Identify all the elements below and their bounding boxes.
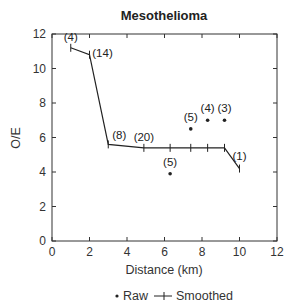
legend-raw-label: Raw: [123, 289, 149, 303]
smoothed-point-label: (8): [112, 129, 126, 141]
raw-point: [189, 127, 193, 131]
raw-point-label: (4): [201, 102, 215, 114]
x-axis-label: Distance (km): [125, 263, 202, 277]
legend: Raw Smoothed: [115, 289, 233, 303]
x-tick-label: 0: [49, 245, 56, 259]
raw-point-label: (5): [163, 156, 177, 168]
y-tick-label: 4: [39, 165, 46, 179]
y-tick-label: 0: [39, 234, 46, 248]
x-tick-label: 10: [233, 245, 247, 259]
y-axis-label: O/E: [9, 127, 23, 149]
x-tick-label: 12: [270, 245, 284, 259]
x-axis-ticks: 024681012: [49, 34, 284, 259]
x-tick-label: 6: [161, 245, 168, 259]
chart-title: Mesothelioma: [121, 8, 208, 23]
y-tick-label: 12: [33, 27, 47, 41]
x-tick-label: 2: [86, 245, 93, 259]
y-tick-label: 6: [39, 131, 46, 145]
smoothed-point-label: (1): [232, 150, 246, 162]
raw-legend-marker: [115, 294, 118, 297]
smoothed-point-label: (14): [92, 47, 113, 59]
raw-point: [223, 118, 227, 122]
smoothed-point-label: (20): [134, 131, 155, 143]
legend-smoothed-label: Smoothed: [176, 289, 233, 303]
raw-point: [206, 118, 210, 122]
y-tick-label: 2: [39, 200, 46, 214]
raw-point-label: (3): [217, 102, 231, 114]
raw-series: (5)(5)(4)(3): [163, 102, 232, 175]
smoothed-point-label: (4): [64, 31, 78, 43]
x-tick-label: 4: [124, 245, 131, 259]
raw-point-label: (5): [184, 111, 198, 123]
x-tick-label: 8: [199, 245, 206, 259]
y-tick-label: 10: [33, 62, 47, 76]
y-axis-ticks: 024681012: [33, 27, 277, 248]
chart: Mesothelioma 024681012 024681012 O/E Dis…: [0, 0, 299, 305]
y-tick-label: 8: [39, 96, 46, 110]
raw-point: [168, 172, 172, 176]
plot-frame: [52, 34, 277, 241]
